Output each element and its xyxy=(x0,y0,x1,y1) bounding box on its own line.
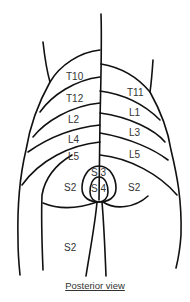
dermatome-diagram: T10 T12 L2 L4 L5 S2 S2 T11 L1 L3 L5 S2 S… xyxy=(0,0,190,302)
left-inner-leg xyxy=(86,202,97,276)
label-L5-right: L5 xyxy=(129,149,141,160)
caption: Posterior view xyxy=(0,280,190,291)
label-T10: T10 xyxy=(66,71,84,82)
band-left-4 xyxy=(28,125,100,152)
label-L3: L3 xyxy=(129,127,141,138)
right-inner-leg xyxy=(102,202,106,276)
label-L2: L2 xyxy=(68,114,80,125)
label-T12: T12 xyxy=(66,93,84,104)
label-S2-left-lower: S2 xyxy=(64,242,77,253)
label-S2-left-upper: S2 xyxy=(64,182,77,193)
label-T11: T11 xyxy=(127,87,144,98)
right-outline xyxy=(150,60,181,268)
left-gluteal-fold xyxy=(43,202,97,207)
right-gluteal-fold xyxy=(103,196,148,207)
label-L5-left: L5 xyxy=(68,151,80,162)
label-S4: S 4 xyxy=(91,183,106,194)
left-outline xyxy=(18,42,50,275)
label-S3: S 3 xyxy=(91,167,106,178)
label-L1: L1 xyxy=(129,107,141,118)
label-L4: L4 xyxy=(68,134,80,145)
label-S2-right: S2 xyxy=(128,182,141,193)
